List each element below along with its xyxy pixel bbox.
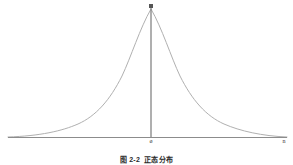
- axis-tick-label-right: n: [278, 138, 290, 145]
- plot-area: [0, 0, 293, 150]
- peak-marker-icon: [149, 4, 153, 8]
- figure-caption: 图 2-2正态分布: [0, 155, 293, 164]
- normal-distribution-figure: ø n 图 2-2正态分布: [0, 0, 293, 165]
- bell-curve-path: [8, 9, 287, 137]
- axis-tick-label-center: ø: [144, 138, 158, 145]
- figure-caption-number: 图 2-2: [120, 156, 141, 163]
- figure-caption-title: 正态分布: [144, 156, 173, 163]
- plot-svg: [0, 0, 293, 150]
